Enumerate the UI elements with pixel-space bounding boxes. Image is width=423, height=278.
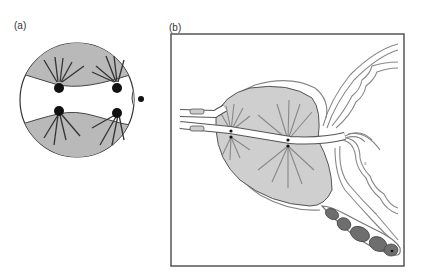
panel-b-diagram: ε xyxy=(171,34,404,266)
aster-center-left-icon xyxy=(229,129,232,132)
nucleus-dot-icon xyxy=(138,96,144,102)
aster-center-right-icon xyxy=(286,138,289,141)
spindle-pole-bottom-right-icon xyxy=(112,108,122,118)
tube-opening-bottom xyxy=(190,126,204,131)
spindle-pole-top-right-icon xyxy=(112,83,122,93)
figure-canvas: ε xyxy=(0,0,423,278)
spindle-pole-bottom-left-icon xyxy=(54,106,64,116)
tube-opening-top xyxy=(190,109,204,114)
svg-text:ε: ε xyxy=(364,160,367,166)
panel-a-cell xyxy=(10,30,145,170)
spindle-pole-top-left-icon xyxy=(54,83,64,93)
